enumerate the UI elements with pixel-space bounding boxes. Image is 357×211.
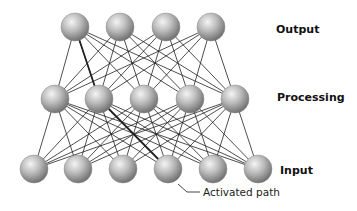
processing-node-1 — [41, 85, 69, 113]
output-node-4 — [197, 13, 225, 41]
processing-node-3 — [130, 85, 158, 113]
processing-node-4 — [176, 85, 204, 113]
input-node-1 — [20, 155, 48, 183]
processing-layer-label: Processing — [277, 91, 345, 104]
input-layer-label: Input — [280, 164, 313, 177]
activated-path-leader-line — [178, 184, 200, 192]
output-node-3 — [152, 13, 180, 41]
input-node-4 — [154, 155, 182, 183]
neural-network-diagram: Output Processing Input Activated path — [0, 0, 357, 211]
output-node-2 — [106, 13, 134, 41]
activated-path-label: Activated path — [203, 186, 280, 198]
output-node-1 — [61, 13, 89, 41]
processing-node-2 — [85, 85, 113, 113]
processing-node-5 — [221, 85, 249, 113]
input-node-6 — [244, 155, 272, 183]
input-node-3 — [109, 155, 137, 183]
input-node-5 — [199, 155, 227, 183]
neuron-nodes — [20, 13, 272, 183]
input-node-2 — [64, 155, 92, 183]
output-layer-label: Output — [276, 23, 319, 36]
connection-line — [190, 99, 258, 169]
